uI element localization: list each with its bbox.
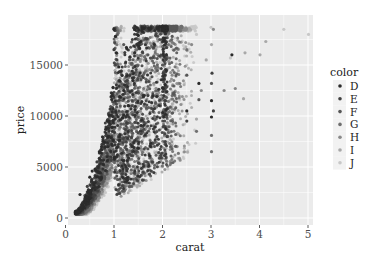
legend: color DEFGHIJ bbox=[330, 66, 359, 170]
x-tick-label: 3 bbox=[208, 228, 215, 240]
x-axis-title: carat bbox=[176, 241, 206, 254]
legend-label-g: G bbox=[350, 118, 358, 130]
legend-title: color bbox=[330, 66, 359, 79]
legend-dot-icon bbox=[338, 135, 342, 139]
legend-dot-icon bbox=[338, 161, 342, 165]
x-tick-label: 2 bbox=[159, 228, 166, 240]
x-axis: 012345 bbox=[62, 225, 311, 240]
y-tick-label: 15000 bbox=[30, 59, 63, 71]
y-axis: 050001000015000 bbox=[30, 59, 68, 224]
legend-dot-icon bbox=[338, 97, 342, 101]
x-tick-label: 5 bbox=[305, 228, 312, 240]
x-tick-label: 0 bbox=[62, 228, 69, 240]
legend-dot-icon bbox=[338, 84, 342, 88]
legend-label-d: D bbox=[350, 80, 358, 92]
legend-label-h: H bbox=[350, 131, 359, 143]
scatter-chart: 012345 050001000015000 carat price color… bbox=[0, 0, 374, 264]
legend-label-e: E bbox=[350, 93, 358, 105]
y-axis-title: price bbox=[14, 106, 27, 135]
x-tick-label: 4 bbox=[256, 228, 263, 240]
legend-label-j: J bbox=[349, 157, 354, 169]
legend-dot-icon bbox=[338, 110, 342, 114]
legend-dot-icon bbox=[338, 148, 342, 152]
y-tick-label: 10000 bbox=[30, 110, 63, 122]
legend-dot-icon bbox=[338, 123, 342, 127]
legend-label-f: F bbox=[350, 106, 357, 118]
legend-keys: DEFGHIJ bbox=[333, 80, 359, 170]
y-tick-label: 5000 bbox=[36, 161, 63, 173]
legend-label-i: I bbox=[350, 144, 354, 156]
x-tick-label: 1 bbox=[111, 228, 118, 240]
y-tick-label: 0 bbox=[56, 212, 63, 224]
